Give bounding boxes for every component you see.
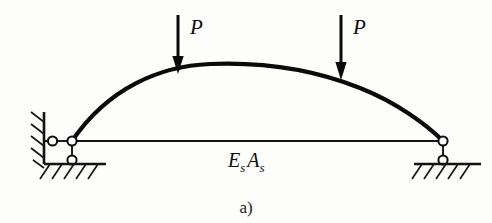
left-ground-hatching [40,164,98,179]
left-arch-pin [67,136,76,145]
tie-label-E: E [227,149,240,171]
tie-label-A: A [245,149,260,171]
structural-diagram: P P EsAs a) [0,0,492,223]
figure-container: P P EsAs a) [0,0,492,223]
tie-label-group: EsAs [227,149,265,175]
figure-caption: a) [239,198,252,217]
tie-stiffness-label: EsAs [227,149,265,175]
left-wall-pin [48,136,57,145]
tie-label-A-sub: s [260,160,265,175]
right-load-label: P [352,15,366,39]
left-support [31,112,106,179]
tie-label-E-sub: s [240,160,245,175]
left-wall-hatching [31,112,44,168]
right-arch-pin [438,136,447,145]
left-load-label: P [189,15,203,39]
right-arrow-head [335,62,346,80]
arch-rib [72,64,443,141]
right-load-arrow: P [335,15,366,80]
right-ground-hatching [412,164,470,179]
left-arrow-head [172,56,183,74]
right-support [412,141,481,179]
